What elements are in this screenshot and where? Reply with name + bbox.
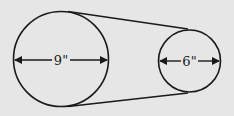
diagram-canvas: 9" 6" — [0, 0, 234, 116]
small-diameter-label: 6" — [182, 54, 196, 69]
pulley-diagram: 9" 6" — [0, 0, 234, 116]
large-diameter-label: 9" — [54, 53, 68, 68]
